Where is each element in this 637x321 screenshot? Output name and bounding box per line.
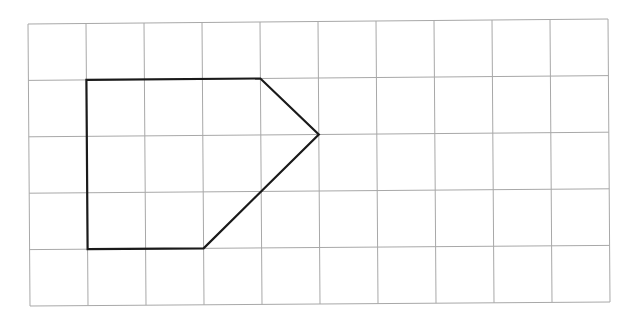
grid-vertical-line [144, 23, 146, 305]
grid-vertical-line [434, 21, 436, 304]
grid-vertical-line [202, 23, 204, 305]
grid-vertical-line [28, 24, 30, 306]
grid-diagram [0, 0, 637, 321]
grid-vertical-line [608, 19, 610, 302]
grid-vertical-line [376, 21, 378, 304]
grid-vertical-line [318, 22, 320, 305]
square-grid [28, 19, 610, 306]
grid-vertical-line [550, 20, 552, 303]
grid-vertical-line [260, 22, 262, 304]
grid-vertical-line [492, 20, 494, 303]
